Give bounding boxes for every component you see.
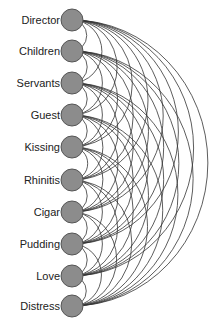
node-circle (61, 72, 83, 94)
node-label: Director (21, 14, 60, 26)
node-label: Rhinitis (24, 174, 60, 186)
node-label: Distress (20, 300, 60, 312)
node-label: Children (19, 45, 60, 57)
edge (72, 83, 148, 244)
edge (72, 51, 148, 212)
node-label: Cigar (34, 206, 60, 218)
node-circle (61, 201, 83, 223)
node-circle (61, 265, 83, 287)
edge (72, 20, 148, 180)
node-circle (61, 169, 83, 191)
node-label: Love (36, 270, 60, 282)
edge (72, 115, 148, 276)
node-circle (61, 40, 83, 62)
node-circle (61, 136, 83, 158)
edge (72, 20, 208, 306)
node-circle (61, 233, 83, 255)
node-circle (61, 9, 83, 31)
node-label: Guest (31, 109, 60, 121)
node-circle (61, 104, 83, 126)
node-circle (61, 295, 83, 317)
node-label: Servants (17, 77, 60, 89)
node-label: Pudding (20, 238, 60, 250)
node-label: Kissing (25, 141, 60, 153)
